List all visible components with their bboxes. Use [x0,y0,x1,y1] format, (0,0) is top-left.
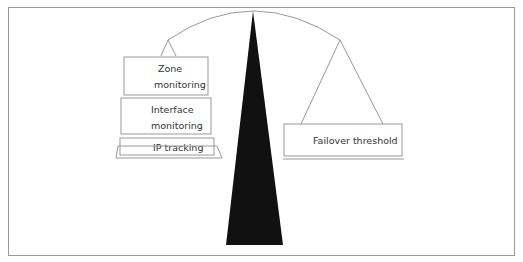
label-interface-line1: Interface [151,104,194,115]
label-zone-line2: monitoring [154,79,206,90]
label-interface-line2: monitoring [151,120,203,131]
right-pan: Failover threshold [283,124,404,159]
label-ip-tracking: IP tracking [153,142,203,153]
label-failover-threshold: Failover threshold [313,135,398,146]
left-pan: Zone monitoring Interface monitoring IP … [116,57,222,158]
label-zone-line1: Zone [158,63,182,74]
balance-scale-diagram: Zone monitoring Interface monitoring IP … [0,0,523,262]
